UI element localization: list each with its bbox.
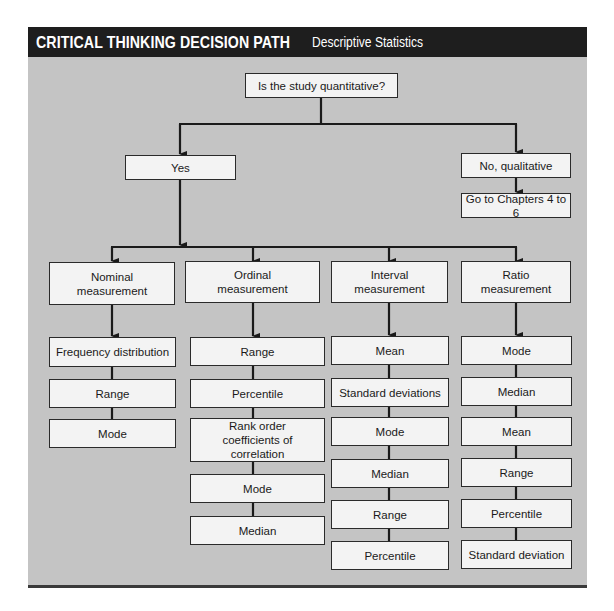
header-bar: CRITICAL THINKING DECISION PATH Descript… [28, 27, 587, 57]
header-title: CRITICAL THINKING DECISION PATH [36, 33, 290, 52]
level-box-nominal: Nominal measurement [49, 262, 175, 305]
stat-box-range: Range [461, 458, 572, 487]
stat-box-median: Median [331, 459, 449, 488]
stat-box-percentile: Percentile [461, 499, 572, 528]
branch-box-no-qualitative: No, qualitative [461, 153, 571, 178]
header-subtitle: Descriptive Statistics [312, 34, 423, 50]
stat-box-mean: Mean [461, 417, 572, 446]
stat-box-rank-order-correlation: Rank order coefficients of correlation [190, 418, 325, 462]
stat-box-standard-deviations: Standard deviations [331, 378, 449, 407]
stat-box-mode: Mode [190, 474, 325, 503]
redirect-box-chapters: Go to Chapters 4 to 6 [461, 193, 571, 218]
stat-box-mode: Mode [49, 419, 176, 448]
stat-box-percentile: Percentile [190, 379, 325, 408]
level-box-ordinal: Ordinal measurement [185, 261, 320, 303]
bottom-rule [28, 585, 587, 588]
stat-box-mode: Mode [461, 336, 572, 365]
stat-box-median: Median [190, 516, 325, 545]
stat-box-mean: Mean [331, 336, 449, 365]
question-box-quantitative: Is the study quantitative? [245, 73, 398, 98]
stat-box-median: Median [461, 377, 572, 406]
stat-box-frequency-distribution: Frequency distribution [49, 337, 176, 367]
stat-box-mode: Mode [331, 417, 449, 446]
stat-box-range: Range [49, 379, 176, 408]
level-box-interval: Interval measurement [331, 261, 448, 303]
stat-box-range: Range [331, 500, 449, 529]
stat-box-percentile: Percentile [331, 541, 449, 570]
stat-box-range: Range [190, 337, 325, 366]
level-box-ratio: Ratio measurement [461, 261, 571, 303]
stat-box-standard-deviation: Standard deviation [461, 540, 572, 569]
branch-box-yes: Yes [125, 155, 236, 180]
